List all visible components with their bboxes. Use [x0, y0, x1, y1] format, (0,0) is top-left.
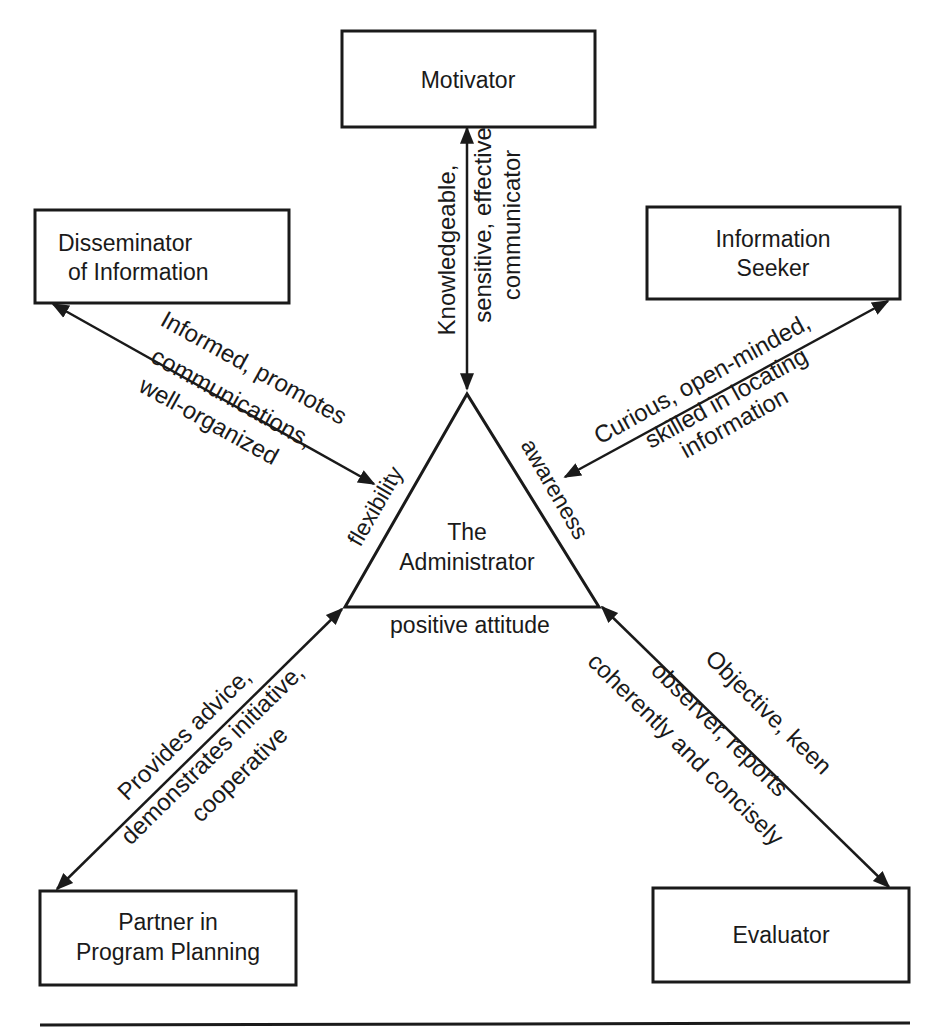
- svg-text:communicator: communicator: [498, 150, 525, 301]
- administrator-roles-diagram: The Administrator flexibility awareness …: [0, 0, 932, 1031]
- side-label-flexibility: flexibility: [342, 461, 408, 550]
- edge-label-disseminator: Informed, promotes communications, well-…: [134, 305, 352, 470]
- node-disseminator-line1: Disseminator: [58, 230, 193, 256]
- edge-label-evaluator: Objective, keen observer, reports cohere…: [583, 644, 838, 850]
- node-information-seeker: Information Seeker: [647, 207, 900, 299]
- node-partner: Partner in Program Planning: [40, 891, 296, 985]
- center-title-line2: Administrator: [399, 549, 535, 575]
- node-disseminator: Disseminator of Information: [35, 210, 289, 303]
- edge-label-seeker: Curious, open-minded, skilled in locatin…: [589, 308, 814, 463]
- svg-text:Knowledgeable,: Knowledgeable,: [433, 165, 460, 336]
- node-motivator-label: Motivator: [421, 67, 516, 93]
- svg-text:sensitive, effective: sensitive, effective: [469, 127, 496, 323]
- node-disseminator-line2: of Information: [68, 259, 209, 285]
- node-evaluator: Evaluator: [653, 888, 909, 982]
- node-partner-line1: Partner in: [118, 909, 218, 935]
- node-seeker-line1: Information: [715, 226, 830, 252]
- node-partner-line2: Program Planning: [76, 939, 260, 965]
- node-motivator: Motivator: [342, 31, 595, 127]
- node-evaluator-label: Evaluator: [732, 922, 830, 948]
- administrator-triangle: The Administrator flexibility awareness …: [342, 394, 599, 638]
- node-seeker-line2: Seeker: [737, 255, 810, 281]
- side-label-positive-attitude: positive attitude: [390, 612, 550, 638]
- edge-label-motivator: Knowledgeable, sensitive, effective comm…: [433, 127, 525, 335]
- center-title-line1: The: [447, 519, 487, 545]
- bottom-divider: [40, 1023, 910, 1025]
- edge-label-partner: Provides advice, demonstrates initiative…: [112, 658, 309, 849]
